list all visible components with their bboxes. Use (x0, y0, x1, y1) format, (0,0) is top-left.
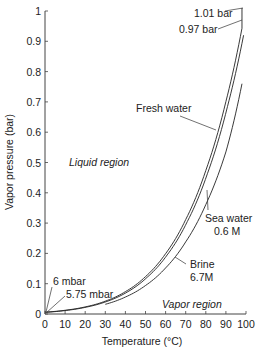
y-tick-label: 0 (35, 308, 41, 320)
x-tick-label: 60 (160, 318, 172, 330)
x-tick-label: 100 (237, 318, 255, 330)
curve-brine (105, 84, 242, 305)
y-tick-label: 0.1 (26, 278, 41, 290)
y-tick-label: 1 (35, 5, 41, 17)
y-tick-label: 0.7 (26, 96, 41, 108)
y-tick-label: 0.9 (26, 35, 41, 47)
x-tick-label: 30 (99, 318, 111, 330)
label-brine: Brine (190, 258, 215, 270)
y-axis-label: Vapor pressure (bar) (3, 114, 15, 210)
x-tick-label: 10 (59, 318, 71, 330)
x-tick-label: 0 (42, 318, 48, 330)
y-tick-label: 0.3 (26, 217, 41, 229)
label-brine-conc: 6.7M (190, 271, 213, 283)
curve-sea (47, 35, 244, 312)
y-tick-label: 0.2 (26, 247, 41, 259)
x-tick-label: 20 (79, 318, 91, 330)
x-tick-label: 50 (140, 318, 152, 330)
x-tick-label: 80 (200, 318, 212, 330)
label-5-75-mbar: 5.75 mbar (66, 288, 114, 300)
x-axis-label: Temperature (°C) (102, 335, 183, 347)
x-tick-label: 70 (180, 318, 192, 330)
y-tick-label: 0.6 (26, 126, 41, 138)
label-0-97-bar: 0.97 bar (179, 23, 218, 35)
label-sea-water-conc: 0.6 M (214, 225, 240, 237)
label-sea-water: Sea water (205, 212, 253, 224)
y-tick-label: 0.5 (26, 157, 41, 169)
label-vapor-region: Vapor region (162, 298, 222, 310)
vapor-pressure-chart: 010203040506070809010000.10.20.30.40.50.… (0, 0, 263, 353)
y-tick-label: 0.4 (26, 187, 41, 199)
label-fresh-water: Fresh water (136, 102, 192, 114)
y-tick-label: 0.8 (26, 66, 41, 78)
label-6-mbar: 6 mbar (53, 275, 86, 287)
label-1-01-bar: 1.01 bar (194, 7, 233, 19)
x-tick-label: 90 (220, 318, 232, 330)
annotations: 1.01 bar 0.97 bar Fresh water Sea water … (46, 7, 253, 313)
x-tick-label: 40 (120, 318, 132, 330)
label-liquid-region: Liquid region (69, 156, 129, 168)
